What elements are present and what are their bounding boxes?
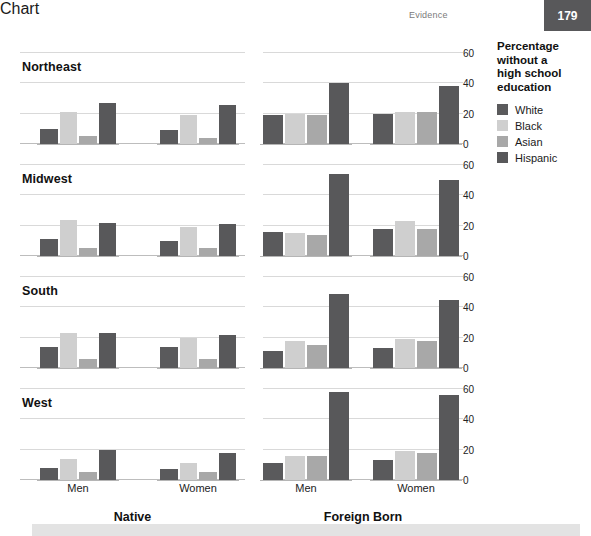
- panel-native-west: MenWomen: [20, 386, 245, 490]
- bars: [160, 274, 236, 368]
- bar-group-men: [263, 274, 349, 368]
- bar-hispanic: [99, 450, 117, 480]
- y-tick-label: 20: [463, 444, 489, 455]
- bar-group-men: [263, 162, 349, 256]
- y-tick-label: 40: [463, 190, 489, 201]
- baseline: [37, 144, 119, 146]
- panel-native-midwest: [20, 162, 245, 266]
- region-row-south: South0204060: [0, 266, 470, 378]
- bar-white: [40, 239, 58, 256]
- plot-area: [263, 50, 463, 144]
- group-label-men: Men: [263, 482, 349, 494]
- y-tick-label: 20: [463, 220, 489, 231]
- bar-white: [160, 469, 178, 480]
- y-axis: 0204060: [463, 162, 493, 256]
- legend-title-line: Percentage: [497, 40, 591, 54]
- y-axis: 0204060: [463, 386, 493, 480]
- legend-swatch-icon: [497, 120, 508, 131]
- bar-hispanic: [219, 453, 237, 480]
- bars: [160, 386, 236, 480]
- bar-white: [373, 460, 393, 480]
- bar-white: [263, 115, 283, 144]
- group-label-men: Men: [40, 482, 116, 494]
- panel-native-northeast: [20, 50, 245, 154]
- baseline: [157, 144, 239, 146]
- y-tick-label: 0: [463, 475, 489, 486]
- panel-foreign-northeast: [263, 50, 463, 154]
- bar-hispanic: [439, 300, 459, 368]
- group-label-women: Women: [160, 482, 236, 494]
- legend-item-label: Hispanic: [515, 152, 557, 164]
- bar-white: [263, 463, 283, 480]
- baseline: [157, 256, 239, 258]
- bar-white: [40, 468, 58, 480]
- y-tick-label: 40: [463, 414, 489, 425]
- bar-hispanic: [329, 294, 349, 368]
- bar-hispanic: [329, 392, 349, 480]
- bars: [263, 386, 349, 480]
- legend-item-asian: Asian: [497, 134, 591, 149]
- y-axis: 0204060: [463, 50, 493, 144]
- region-row-northeast: Northeast0204060: [0, 42, 470, 154]
- bar-group-women: [373, 274, 459, 368]
- baseline: [370, 256, 462, 258]
- chart-legend: Percentagewithout ahigh schooleducation …: [497, 40, 591, 166]
- panel-native-south: [20, 274, 245, 378]
- bar-group-men: [40, 50, 116, 144]
- bar-group-women: Women: [373, 386, 459, 480]
- y-tick-label: 20: [463, 108, 489, 119]
- baseline: [370, 480, 462, 482]
- bar-group-women: [373, 50, 459, 144]
- bars: [40, 274, 116, 368]
- legend-item-label: Asian: [515, 136, 543, 148]
- bar-black: [60, 459, 78, 480]
- bar-hispanic: [329, 83, 349, 144]
- bar-group-women: [373, 162, 459, 256]
- bar-black: [180, 338, 198, 368]
- y-tick-label: 0: [463, 363, 489, 374]
- legend-swatch-icon: [497, 152, 508, 163]
- bar-hispanic: [329, 174, 349, 256]
- legend-item-label: Black: [515, 120, 542, 132]
- bar-group-women: Women: [160, 386, 236, 480]
- bars: [263, 274, 349, 368]
- bar-hispanic: [219, 335, 237, 368]
- bar-group-men: [263, 50, 349, 144]
- y-axis: 0204060: [463, 274, 493, 368]
- bar-hispanic: [219, 224, 237, 256]
- bar-white: [160, 347, 178, 368]
- y-tick-label: 60: [463, 272, 489, 283]
- y-tick-label: 0: [463, 139, 489, 150]
- bar-black: [395, 451, 415, 480]
- legend-title-line: high school: [497, 67, 591, 81]
- baseline: [370, 144, 462, 146]
- bar-white: [160, 241, 178, 256]
- bars: [373, 162, 459, 256]
- baseline: [260, 144, 352, 146]
- region-row-midwest: Midwest0204060: [0, 154, 470, 266]
- y-tick-label: 60: [463, 384, 489, 395]
- legend-items: WhiteBlackAsianHispanic: [497, 102, 591, 165]
- running-head: Evidence: [409, 10, 448, 20]
- page-number: 179: [544, 0, 591, 31]
- bar-hispanic: [99, 333, 117, 368]
- bar-asian: [307, 456, 327, 480]
- y-tick-label: 0: [463, 251, 489, 262]
- legend-item-hispanic: Hispanic: [497, 150, 591, 165]
- y-tick-label: 60: [463, 48, 489, 59]
- region-row-west: WestMenWomenMenWomen0204060: [0, 378, 470, 490]
- panel-foreign-south: [263, 274, 463, 378]
- bar-group-women: [160, 50, 236, 144]
- bars: [40, 50, 116, 144]
- legend-title-line: education: [497, 81, 591, 95]
- plot-area: [20, 274, 245, 368]
- bar-group-men: [40, 274, 116, 368]
- bar-hispanic: [219, 105, 237, 144]
- legend-title-line: without a: [497, 54, 591, 68]
- panel-label-foreign-born: Foreign Born: [263, 510, 463, 524]
- legend-item-white: White: [497, 102, 591, 117]
- bar-group-men: Men: [263, 386, 349, 480]
- bars: [160, 162, 236, 256]
- bar-white: [263, 351, 283, 368]
- bar-group-men: Men: [40, 386, 116, 480]
